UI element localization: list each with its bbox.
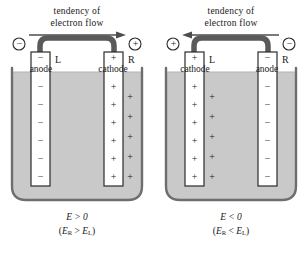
ion-mark: +: [185, 132, 204, 150]
ion-mark: +: [124, 127, 136, 147]
ion-mark: +: [104, 78, 123, 96]
ion-mark: −: [31, 150, 50, 168]
paren-close: ): [246, 226, 249, 236]
ion-mark: +: [124, 167, 136, 187]
right-cathode-label: cathode: [168, 64, 222, 74]
ion-mark: +: [206, 147, 218, 167]
left-anode-ion-column: − − − − − −: [31, 78, 50, 186]
ion-mark: +: [185, 168, 204, 186]
ion-mark: +: [185, 114, 204, 132]
right-solution-ion-column: + + + + +: [206, 87, 218, 187]
ion-mark: +: [124, 107, 136, 127]
left-cathode-sign: +: [104, 52, 123, 64]
ion-mark: +: [206, 127, 218, 147]
right-cell-result-sub: (ER < EL): [154, 225, 308, 239]
ion-mark: +: [124, 87, 136, 107]
ion-mark: +: [206, 87, 218, 107]
ion-mark: +: [104, 114, 123, 132]
ion-mark: −: [31, 168, 50, 186]
left-negative-terminal-sign: −: [13, 37, 26, 50]
ion-mark: −: [31, 132, 50, 150]
right-anode-sign: −: [258, 52, 277, 64]
ion-mark: +: [206, 167, 218, 187]
ion-mark: −: [31, 78, 50, 96]
left-anode-sign: −: [31, 52, 50, 64]
left-cathode-label: cathode: [89, 64, 137, 74]
right-negative-terminal-sign: −: [283, 37, 296, 50]
ion-mark: −: [258, 150, 277, 168]
right-cathode-sign: +: [185, 52, 204, 64]
ion-mark: −: [258, 114, 277, 132]
right-cell: tendency of electron flow + − + − L R ca…: [154, 0, 308, 253]
comparison-operator: >: [72, 226, 82, 236]
ion-mark: −: [258, 132, 277, 150]
right-cathode-ion-column: + + + + + +: [185, 78, 204, 186]
ion-mark: +: [104, 132, 123, 150]
ion-mark: +: [104, 150, 123, 168]
ion-mark: +: [124, 147, 136, 167]
left-positive-terminal-sign: +: [129, 37, 142, 50]
ion-mark: −: [258, 168, 277, 186]
right-anode-label: anode: [243, 64, 291, 74]
ion-mark: +: [104, 168, 123, 186]
ion-mark: +: [104, 96, 123, 114]
left-cell: tendency of electron flow: [0, 0, 154, 253]
left-cell-result-main: E > 0: [0, 211, 154, 224]
ion-mark: −: [258, 96, 277, 114]
left-result-text: E > 0: [66, 212, 88, 222]
right-anode-ion-column: − − − − − −: [258, 78, 277, 186]
ion-mark: +: [185, 78, 204, 96]
left-solution-ion-column: + + + + +: [124, 87, 136, 187]
left-cathode-ion-column: + + + + + +: [104, 78, 123, 186]
right-cell-result-main: E < 0: [154, 211, 308, 224]
ion-mark: −: [258, 78, 277, 96]
ion-mark: −: [31, 114, 50, 132]
ion-mark: −: [31, 96, 50, 114]
ion-mark: +: [206, 107, 218, 127]
right-positive-terminal-sign: +: [167, 37, 180, 50]
right-result-text: E < 0: [220, 212, 242, 222]
figure-canvas: tendency of electron flow: [0, 0, 308, 253]
left-anode-label: anode: [17, 64, 65, 74]
left-cell-result-sub: (ER > EL): [0, 225, 154, 239]
left-connecting-wire: [40, 38, 114, 55]
ion-mark: +: [185, 150, 204, 168]
paren-close: ): [92, 226, 95, 236]
right-connecting-wire: [194, 38, 268, 55]
ion-mark: +: [185, 96, 204, 114]
comparison-operator: <: [226, 226, 236, 236]
